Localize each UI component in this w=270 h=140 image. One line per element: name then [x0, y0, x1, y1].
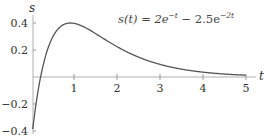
x-tick-label: 3	[157, 82, 164, 95]
x-tick-label: 1	[71, 82, 78, 95]
x-tick-label: 5	[243, 82, 250, 95]
y-tick-label: 0.4	[11, 17, 29, 30]
x-tick-label: 4	[200, 82, 207, 95]
curve-s-of-t	[33, 23, 246, 129]
x-axis-label: t	[259, 69, 264, 83]
x-tick-label: 2	[114, 82, 121, 95]
y-tick-label: −0.4	[1, 125, 28, 138]
y-axis-label: s	[29, 1, 35, 15]
chart: 0.4 0.2 −0.2 −0.4 1 2 3 4 5 s t s(t) = 2…	[0, 0, 270, 140]
x-tick-labels: 1 2 3 4 5	[71, 82, 250, 95]
formula-annotation: s(t) = 2e−t − 2.5e−2t	[118, 11, 235, 26]
y-tick-labels: 0.4 0.2 −0.2 −0.4	[1, 17, 28, 138]
y-tick-label: 0.2	[11, 44, 29, 57]
y-tick-label: −0.2	[1, 98, 28, 111]
